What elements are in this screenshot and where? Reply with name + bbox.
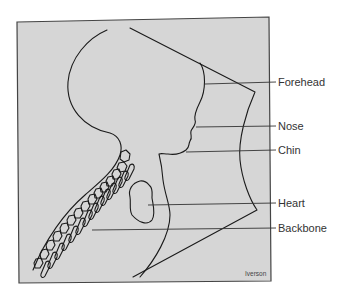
label-heart: Heart	[278, 197, 305, 209]
label-nose: Nose	[278, 120, 304, 132]
label-chin: Chin	[278, 144, 301, 156]
label-backbone: Backbone	[278, 222, 327, 234]
label-forehead: Forehead	[278, 76, 325, 88]
artist-credit: Iverson	[245, 270, 266, 277]
diagram-frame	[17, 17, 271, 283]
